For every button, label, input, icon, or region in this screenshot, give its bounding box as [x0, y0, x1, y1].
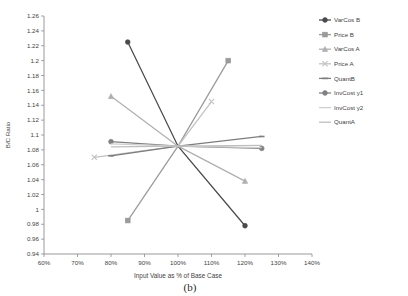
x-tick-label: 110% — [204, 259, 220, 266]
y-tick-label: 1.1 — [30, 131, 39, 138]
y-axis-tick-marks — [41, 16, 44, 254]
chart-canvas: 0.940.960.9811.021.041.061.081.11.121.14… — [0, 0, 408, 296]
chart-figure: 0.940.960.9811.021.041.061.081.11.121.14… — [0, 0, 408, 296]
series-line — [111, 96, 245, 181]
chart-legend: VarCos BPrice BVarCos APrice AQuantBInvC… — [319, 16, 364, 125]
y-tick-label: 0.96 — [27, 235, 40, 242]
x-tick-label: 70% — [71, 259, 84, 266]
y-tick-label: 1.24 — [27, 27, 40, 34]
legend-swatch-marker — [323, 32, 328, 37]
y-axis-tick-labels: 0.940.960.9811.021.041.061.081.11.121.14… — [27, 12, 40, 257]
series-line — [128, 42, 245, 226]
series-varcos-a — [108, 94, 247, 184]
legend-label: VarCos B — [334, 16, 360, 23]
spider-sensitivity-chart: 0.940.960.9811.021.041.061.081.11.121.14… — [0, 0, 408, 296]
data-point-marker — [226, 58, 231, 63]
y-tick-label: 1.16 — [27, 87, 40, 94]
data-point-marker — [243, 223, 248, 228]
legend-item-varcos-a[interactable]: VarCos A — [319, 45, 361, 52]
data-point-marker — [125, 218, 130, 223]
series-varcos-b — [125, 40, 247, 229]
legend-item-quanta[interactable]: QuantA — [319, 118, 356, 125]
legend-item-price-a[interactable]: Price A — [319, 60, 354, 67]
legend-label: Price A — [334, 60, 354, 67]
x-tick-label: 130% — [271, 259, 287, 266]
figure-caption: (b) — [184, 281, 197, 294]
x-tick-label: 100% — [170, 259, 186, 266]
x-tick-label: 80% — [105, 259, 118, 266]
x-tick-label: 60% — [38, 259, 51, 266]
series-line — [94, 102, 211, 158]
y-tick-label: 1.2 — [30, 57, 39, 64]
y-tick-label: 0.98 — [27, 220, 40, 227]
y-tick-label: 1.12 — [27, 116, 40, 123]
x-tick-label: 140% — [304, 259, 320, 266]
y-tick-label: 1.14 — [27, 101, 40, 108]
x-axis-tick-marks — [44, 254, 312, 257]
y-tick-label: 1.18 — [27, 72, 40, 79]
y-tick-label: 1.26 — [27, 12, 40, 19]
legend-label: InvCost y2 — [334, 104, 364, 111]
legend-label: QuantA — [334, 118, 356, 125]
y-tick-label: 1.02 — [27, 191, 40, 198]
x-tick-label: 120% — [237, 259, 253, 266]
y-axis-title: B/C Ratio — [4, 121, 11, 148]
legend-label: InvCost y1 — [334, 89, 364, 96]
series-price-b — [125, 58, 230, 223]
legend-swatch-marker — [323, 91, 328, 96]
series-price-a — [92, 99, 214, 160]
y-tick-label: 1 — [36, 206, 40, 213]
legend-item-quantb[interactable]: QuantB — [319, 75, 355, 82]
y-tick-label: 0.94 — [27, 250, 40, 257]
data-point-marker — [259, 146, 264, 151]
y-tick-label: 1.22 — [27, 42, 40, 49]
series-layer — [92, 40, 265, 229]
legend-label: Price B — [334, 31, 354, 38]
data-point-marker — [209, 99, 214, 104]
series-line — [128, 61, 229, 221]
legend-label: VarCos A — [334, 45, 361, 52]
x-axis-title: Input Value as % of Base Case — [134, 272, 222, 280]
data-point-marker — [108, 94, 113, 99]
y-tick-label: 1.06 — [27, 161, 40, 168]
x-axis-tick-labels: 60%70%80%90%100%110%120%130%140% — [38, 259, 321, 266]
legend-label: QuantB — [334, 75, 355, 82]
x-tick-label: 90% — [138, 259, 151, 266]
data-point-marker — [125, 40, 130, 45]
legend-swatch-marker — [323, 18, 328, 23]
y-tick-label: 1.04 — [27, 176, 40, 183]
legend-item-varcos-b[interactable]: VarCos B — [319, 16, 360, 23]
y-tick-label: 1.08 — [27, 146, 40, 153]
legend-item-price-b[interactable]: Price B — [319, 31, 354, 38]
legend-item-invcost-y1[interactable]: InvCost y1 — [319, 89, 364, 96]
legend-item-invcost-y2[interactable]: InvCost y2 — [319, 104, 364, 111]
data-point-marker — [242, 178, 247, 183]
